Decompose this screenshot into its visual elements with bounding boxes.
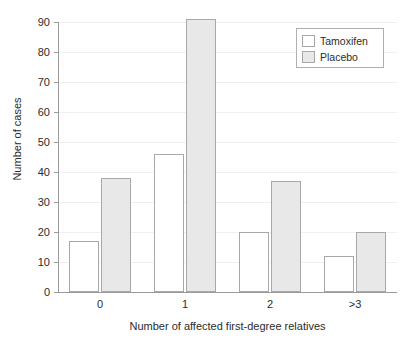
bar-tamoxifen-gt3 xyxy=(324,256,354,292)
legend-label-tamoxifen: Tamoxifen xyxy=(320,35,368,47)
x-axis-title: Number of affected first-degree relative… xyxy=(58,320,397,332)
bar-tamoxifen-2 xyxy=(239,232,269,292)
x-tick-label-gt3: >3 xyxy=(349,298,362,311)
bar-placebo-2 xyxy=(271,181,301,292)
gridline-90 xyxy=(59,22,397,23)
legend-item-placebo: Placebo xyxy=(302,49,378,64)
legend-swatch-tamoxifen xyxy=(302,35,315,47)
y-axis-line xyxy=(58,22,59,293)
y-tick-label-20: 20 xyxy=(38,227,50,238)
y-tick-label-40: 40 xyxy=(38,167,50,178)
bar-placebo-1 xyxy=(186,19,216,292)
bar-tamoxifen-0 xyxy=(69,241,99,292)
y-tick-label-80: 80 xyxy=(38,47,50,58)
gridline-40 xyxy=(59,172,397,173)
gridline-60 xyxy=(59,112,397,113)
x-tick-label-2: 2 xyxy=(267,298,273,311)
y-axis-tick-labels: 0102030405060708090 xyxy=(0,22,50,293)
y-tick-label-70: 70 xyxy=(38,77,50,88)
y-tick-label-0: 0 xyxy=(44,287,50,298)
y-tick-label-90: 90 xyxy=(38,17,50,28)
bar-chart-figure: Number of cases 0102030405060708090 012>… xyxy=(0,0,413,344)
x-axis-line xyxy=(58,292,397,293)
bar-tamoxifen-1 xyxy=(154,154,184,292)
bar-placebo-gt3 xyxy=(356,232,386,292)
legend-swatch-placebo xyxy=(302,51,315,63)
y-tick-label-10: 10 xyxy=(38,257,50,268)
x-tick-label-0: 0 xyxy=(97,298,103,311)
legend: TamoxifenPlacebo xyxy=(296,28,384,68)
y-tick-label-60: 60 xyxy=(38,107,50,118)
legend-item-tamoxifen: Tamoxifen xyxy=(302,33,378,48)
legend-label-placebo: Placebo xyxy=(320,51,358,63)
gridline-50 xyxy=(59,142,397,143)
x-tick-label-1: 1 xyxy=(182,298,188,311)
gridline-70 xyxy=(59,82,397,83)
y-tick-label-50: 50 xyxy=(38,137,50,148)
bar-placebo-0 xyxy=(101,178,131,292)
x-axis-tick-labels: 012>3 xyxy=(58,298,397,314)
y-tick-label-30: 30 xyxy=(38,197,50,208)
